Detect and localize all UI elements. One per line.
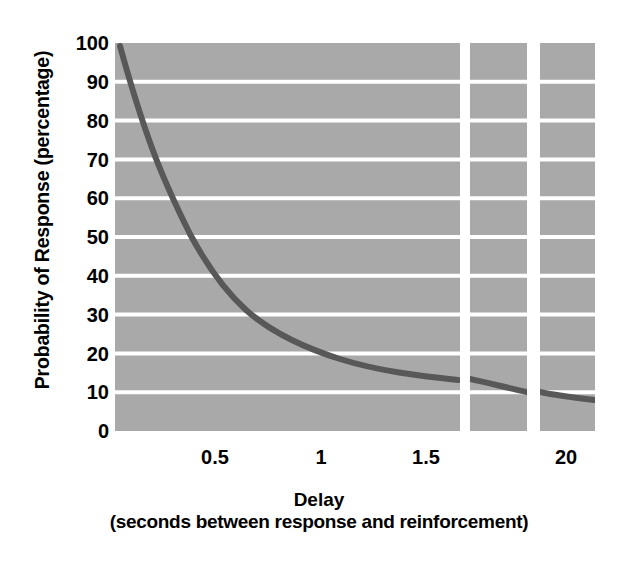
y-tick-50: 50 [61, 227, 109, 247]
y-tick-30: 30 [61, 305, 109, 325]
y-axis-title: Probability of Response (percentage) [27, 10, 57, 430]
y-tick-100: 100 [61, 33, 109, 53]
y-tick-60: 60 [61, 188, 109, 208]
y-tick-40: 40 [61, 266, 109, 286]
x-axis-title-line2: (seconds between response and reinforcem… [0, 510, 638, 534]
y-axis-title-text: Probability of Response (percentage) [31, 51, 54, 389]
y-tick-10: 10 [61, 382, 109, 402]
x-tick-1-5: 1.5 [412, 447, 440, 467]
y-tick-20: 20 [61, 344, 109, 364]
y-axis-tick-labels: 100 90 80 70 60 50 40 30 20 10 0 [57, 0, 109, 561]
y-tick-90: 90 [61, 72, 109, 92]
x-axis-title: Delay (seconds between response and rein… [0, 489, 638, 534]
x-axis-title-line1: Delay [0, 489, 638, 510]
y-tick-0: 0 [61, 421, 109, 441]
x-tick-0-5: 0.5 [201, 447, 229, 467]
chart-figure: Probability of Response (percentage) 100… [0, 0, 638, 561]
y-tick-80: 80 [61, 111, 109, 131]
x-tick-1: 1 [315, 447, 326, 467]
y-tick-70: 70 [61, 150, 109, 170]
x-tick-20: 20 [555, 447, 577, 467]
